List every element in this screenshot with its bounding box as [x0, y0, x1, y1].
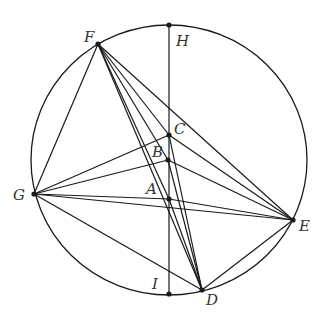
- segment-ED: [202, 220, 293, 290]
- point-C: [166, 132, 171, 137]
- point-E: [290, 217, 295, 222]
- label-F: F: [84, 30, 94, 45]
- segment-FD: [98, 44, 202, 290]
- point-B: [165, 157, 170, 162]
- label-H: H: [176, 34, 189, 49]
- label-D: D: [206, 293, 218, 308]
- point-G: [31, 191, 36, 196]
- point-F: [95, 41, 100, 46]
- point-H: [166, 22, 171, 27]
- label-E: E: [299, 219, 310, 234]
- segment-FG: [34, 44, 98, 194]
- label-G: G: [13, 188, 25, 203]
- segment-BD: [168, 160, 202, 290]
- segment-CE: [169, 135, 293, 220]
- label-A: A: [146, 182, 157, 197]
- point-A: [166, 196, 171, 201]
- segment-FE: [98, 44, 293, 220]
- label-C: C: [174, 122, 185, 137]
- label-I: I: [152, 277, 158, 292]
- point-I: [166, 291, 171, 296]
- point-D: [199, 287, 204, 292]
- label-B: B: [152, 145, 163, 160]
- geometry-diagram: HIFGEDCBA: [0, 0, 326, 319]
- segment-BE: [168, 160, 293, 220]
